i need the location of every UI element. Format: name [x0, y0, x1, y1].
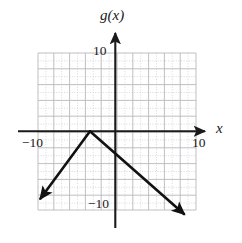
y-axis-tick-label-neg10: −10 [88, 197, 109, 211]
graph-figure: g(x) 10 −10 −10 10 x [0, 0, 242, 243]
function-title-label: g(x) [100, 8, 124, 23]
x-axis-tick-label-10: 10 [192, 136, 206, 150]
y-axis-tick-label-10: 10 [93, 44, 107, 58]
coordinate-plane-graphic [0, 0, 242, 243]
x-axis-tick-label-neg10: −10 [22, 136, 43, 150]
x-axis-variable-label: x [216, 121, 223, 136]
curve-left-branch [41, 131, 91, 198]
